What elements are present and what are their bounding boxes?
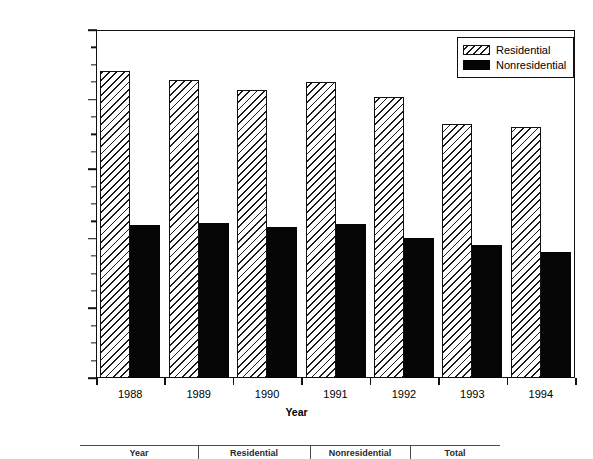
y-axis: 0500,0001,000,0001,500,0002,000,0002,500… (0, 0, 96, 459)
table-header-cell: Year (129, 448, 148, 458)
x-tick-label-1993: 1993 (460, 388, 484, 400)
bar-nonresidential-1988 (130, 225, 160, 378)
bar-residential-1992 (374, 97, 404, 378)
x-tick (370, 378, 372, 385)
x-tick (233, 378, 235, 385)
legend-swatch-residential-icon (463, 45, 490, 55)
table-header-cell: Total (445, 448, 466, 458)
burglaries-bar-chart: Reported Burglaries 0500,0001,000,0001,5… (0, 0, 593, 459)
legend-label-residential: Residential (496, 45, 550, 56)
x-tick-label-1988: 1988 (118, 388, 142, 400)
bar-residential-1993 (442, 124, 472, 378)
legend-item-nonresidential: Nonresidential (463, 58, 566, 72)
legend-item-residential: Residential (463, 43, 566, 57)
bar-nonresidential-1994 (541, 252, 571, 378)
legend: Residential Nonresidential (457, 37, 574, 78)
bars-layer (96, 30, 575, 378)
bar-residential-1994 (511, 127, 541, 378)
bar-nonresidential-1990 (267, 227, 297, 378)
x-tick-label-1989: 1989 (186, 388, 210, 400)
x-axis-title: Year (0, 406, 593, 418)
x-tick (164, 378, 166, 385)
table-column-divider (198, 446, 199, 459)
table-header-fragment: YearResidentialNonresidentialTotal (80, 445, 500, 459)
x-tick (575, 378, 577, 385)
legend-label-nonresidential: Nonresidential (496, 60, 566, 71)
bar-nonresidential-1993 (472, 245, 502, 378)
bar-residential-1989 (169, 80, 199, 378)
x-tick-label-1990: 1990 (255, 388, 279, 400)
table-top-rule (80, 445, 500, 446)
bar-residential-1988 (100, 71, 130, 378)
x-tick (507, 378, 509, 385)
table-column-divider (310, 446, 311, 459)
table-column-divider (410, 446, 411, 459)
x-tick (438, 378, 440, 385)
table-header-cell: Nonresidential (329, 448, 392, 458)
x-tick (301, 378, 303, 385)
table-header-cell: Residential (230, 448, 278, 458)
bar-nonresidential-1992 (404, 238, 434, 378)
bar-residential-1990 (237, 90, 267, 378)
bar-nonresidential-1991 (336, 224, 366, 378)
x-tick-label-1994: 1994 (529, 388, 553, 400)
legend-swatch-nonresidential-icon (463, 60, 490, 70)
x-tick-label-1991: 1991 (323, 388, 347, 400)
x-tick (96, 378, 98, 385)
x-tick-label-1992: 1992 (392, 388, 416, 400)
bar-nonresidential-1989 (199, 223, 229, 378)
bar-residential-1991 (306, 82, 336, 378)
